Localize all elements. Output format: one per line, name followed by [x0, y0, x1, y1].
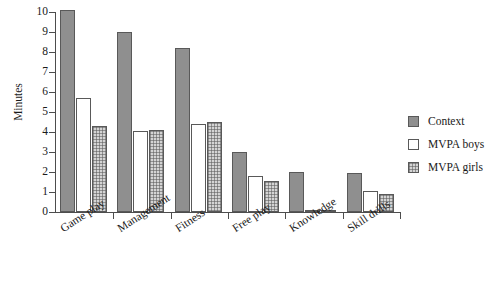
- y-axis-tick-label: 3: [4, 146, 48, 158]
- bar-group: [60, 12, 107, 212]
- legend-item[interactable]: Context: [408, 110, 484, 133]
- bar-mvpa-boys[interactable]: [191, 124, 206, 212]
- bar-group: [117, 12, 164, 212]
- y-axis-tick: [49, 12, 55, 13]
- y-axis-tick: [49, 172, 55, 173]
- y-axis-tick: [49, 52, 55, 53]
- y-axis-tick-label: 8: [4, 46, 48, 58]
- legend-item[interactable]: MVPA boys: [408, 133, 484, 156]
- x-axis-tick: [228, 213, 229, 219]
- bar-group: [175, 12, 222, 212]
- chart-figure: Minutes 109876543210 ContextMVPA boysMVP…: [0, 0, 504, 294]
- legend-item-label: Context: [428, 116, 464, 128]
- y-axis-tick-label: 10: [4, 6, 48, 18]
- bar-context[interactable]: [117, 32, 132, 212]
- crosshatch-gray-swatch-icon: [408, 162, 419, 173]
- bar-group: [347, 12, 394, 212]
- empty-white-swatch-icon: [408, 139, 419, 150]
- bar-mvpa-boys[interactable]: [133, 131, 148, 212]
- y-axis-tick-label: 7: [4, 66, 48, 78]
- chart-legend: ContextMVPA boysMVPA girls: [408, 110, 484, 179]
- y-axis-tick-label: 6: [4, 86, 48, 98]
- plot-area: [56, 12, 400, 212]
- bar-context[interactable]: [175, 48, 190, 212]
- y-axis-tick: [49, 192, 55, 193]
- y-axis-tick: [49, 152, 55, 153]
- y-axis-labels: 109876543210: [0, 0, 48, 294]
- y-axis-tick-label: 1: [4, 186, 48, 198]
- y-axis-tick: [49, 132, 55, 133]
- bar-context[interactable]: [60, 10, 75, 212]
- x-axis-tick: [285, 213, 286, 219]
- y-axis-tick-label: 0: [4, 206, 48, 218]
- legend-item-label: MVPA boys: [428, 139, 484, 151]
- y-axis-tick: [49, 212, 55, 213]
- bar-context[interactable]: [232, 152, 247, 212]
- x-axis-tick: [113, 213, 114, 219]
- y-axis-tick: [49, 32, 55, 33]
- y-axis-tick: [49, 112, 55, 113]
- solid-gray-swatch-icon: [408, 116, 419, 127]
- x-axis-tick: [171, 213, 172, 219]
- bar-group: [289, 12, 336, 212]
- bar-context[interactable]: [347, 173, 362, 212]
- legend-item-label: MVPA girls: [428, 162, 483, 174]
- bar-context[interactable]: [289, 172, 304, 212]
- x-axis-tick: [343, 213, 344, 219]
- y-axis-tick: [49, 72, 55, 73]
- y-axis-tick: [49, 92, 55, 93]
- bar-group: [232, 12, 279, 212]
- y-axis-tick-label: 5: [4, 106, 48, 118]
- y-axis-tick-label: 9: [4, 26, 48, 38]
- x-axis-tick: [400, 213, 401, 219]
- y-axis-tick-label: 2: [4, 166, 48, 178]
- legend-item[interactable]: MVPA girls: [408, 156, 484, 179]
- bar-mvpa-boys[interactable]: [76, 98, 91, 212]
- y-axis-tick-label: 4: [4, 126, 48, 138]
- bar-mvpa-girls[interactable]: [207, 122, 222, 212]
